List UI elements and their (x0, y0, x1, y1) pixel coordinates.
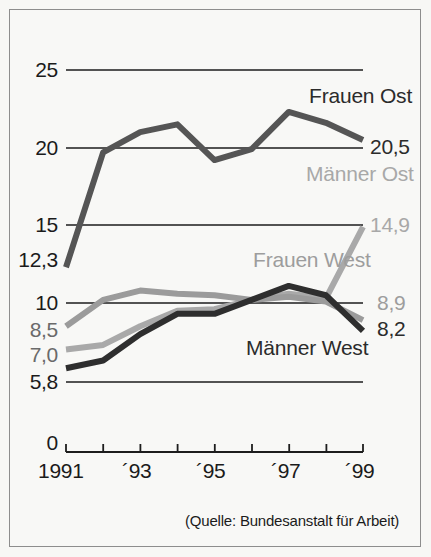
y-tick-label-7-0: 7,0 (8, 344, 58, 365)
y-tick-label-12-3: 12,3 (8, 249, 58, 270)
y-tick-label-25: 25 (18, 59, 58, 80)
y-tick-label-15: 15 (18, 214, 58, 235)
series-label-maenner-west: Männer West (246, 337, 368, 358)
y-tick-label-10: 10 (18, 292, 58, 313)
x-tick-label-99: ´99 (345, 460, 374, 481)
y-tick-label-0: 0 (18, 432, 58, 453)
y-tick-label-8-5: 8,5 (8, 319, 58, 340)
series-label-frauen-west: Frauen West (253, 249, 371, 270)
series-lines (66, 112, 363, 368)
series-label-maenner-ost: Männer Ost (306, 163, 414, 184)
source-note: (Quelle: Bundesanstalt für Arbeit) (185, 512, 399, 529)
x-tick-label-93: ´93 (122, 460, 151, 481)
y-tick-label-20: 20 (18, 137, 58, 158)
end-value-frauen-ost: 20,5 (370, 136, 410, 157)
x-tick-label-1991: 1991 (38, 460, 84, 481)
y-tick-label-5-8: 5,8 (8, 371, 58, 392)
end-value-frauen-west: 8,9 (377, 292, 405, 313)
end-value-maenner-ost: 14,9 (370, 214, 410, 235)
x-axis-ticks (66, 444, 363, 452)
series-line-frauen-ost (66, 112, 363, 267)
x-tick-label-97: ´97 (271, 460, 300, 481)
end-value-maenner-west: 8,2 (377, 318, 405, 339)
series-label-frauen-ost: Frauen Ost (309, 85, 412, 106)
series-line-maenner-ost (66, 227, 363, 350)
x-tick-label-95: ´95 (196, 460, 225, 481)
chart-page: 25 20 15 12,3 10 8,5 7,0 5,8 0 1991 ´93 … (0, 0, 431, 557)
